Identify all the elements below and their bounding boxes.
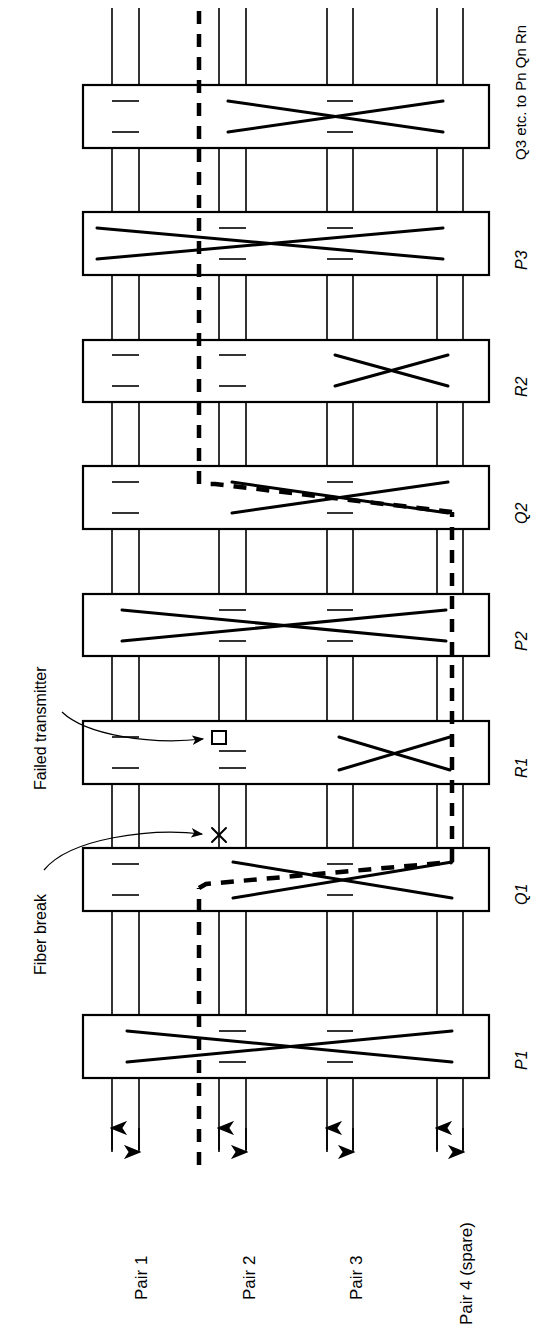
node-label-r2: R2: [513, 377, 531, 397]
node-r2[interactable]: [83, 340, 489, 402]
node-p2[interactable]: [83, 594, 489, 656]
node-label-p1: P1: [513, 1050, 531, 1070]
node-qn[interactable]: [83, 85, 489, 148]
node-label-q2: Q2: [513, 503, 531, 524]
pair-label-3: Pair 3: [347, 1256, 367, 1300]
node-r2-box[interactable]: [83, 340, 489, 402]
node-qn-box[interactable]: [83, 85, 489, 148]
failed-transmitter-marker-icon: [212, 731, 226, 744]
node-label-r1: R1: [513, 758, 531, 778]
direction-arrows-group: [112, 1128, 463, 1152]
pair-label-4-spare: Pair 4 (spare): [457, 1222, 477, 1325]
protection-path-dashed: [199, 10, 452, 1165]
node-p3[interactable]: [83, 212, 489, 275]
node-q2[interactable]: [83, 466, 489, 529]
pair-label-2: Pair 2: [240, 1256, 260, 1300]
node-r1-box[interactable]: [83, 721, 489, 784]
fiber-schematic: [0, 0, 540, 1331]
annotation-label-fiber-break: Fiber break: [32, 894, 50, 975]
node-q1-box[interactable]: [83, 848, 489, 911]
node-q2-box[interactable]: [83, 466, 489, 529]
node-label-p3: P3: [513, 250, 531, 270]
node-label-q1: Q1: [513, 884, 531, 905]
node-q1[interactable]: [83, 848, 489, 911]
annotation-label-failed-transmitter: Failed transmitter: [32, 666, 50, 790]
node-r1[interactable]: [83, 721, 489, 784]
node-p1[interactable]: [83, 1015, 489, 1078]
diagram-canvas: P1 Q1 R1 P2 Q2 R2 P3 Q3 etc. to Pn Qn Rn…: [0, 0, 540, 1331]
pair-label-1: Pair 1: [132, 1256, 152, 1300]
fiber-lines-group: [112, 8, 463, 1150]
node-label-qn-etc: Q3 etc. to Pn Qn Rn: [512, 25, 529, 160]
node-label-p2: P2: [513, 631, 531, 651]
